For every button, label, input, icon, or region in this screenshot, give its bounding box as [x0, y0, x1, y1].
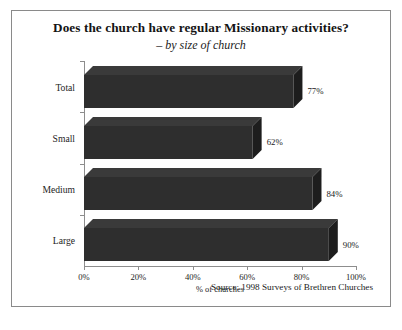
category-label-large: Large [53, 235, 75, 246]
bar-top-face [84, 219, 338, 228]
category-label-small: Small [53, 132, 75, 143]
bar-top-face [84, 168, 321, 177]
bar-shape [84, 168, 323, 212]
chart-title: Does the church have regular Missionary … [12, 20, 390, 35]
bar-value-label-large: 90% [343, 240, 359, 250]
x-axis-tick-label: 20% [131, 272, 147, 282]
bar-front-face [84, 177, 312, 210]
bar-top-face [84, 66, 302, 75]
bar-large [84, 219, 340, 263]
category-label-medium: Medium [42, 184, 75, 195]
title-block: Does the church have regular Missionary … [12, 20, 390, 53]
bar-shape [84, 117, 264, 161]
x-axis-tick [193, 266, 194, 270]
bar-value-label-small: 62% [267, 137, 283, 147]
x-axis-tick-label: 60% [239, 272, 255, 282]
x-axis-tick-label: 40% [185, 272, 201, 282]
x-axis-line [84, 266, 356, 267]
bar-total [84, 66, 304, 110]
x-axis-tick [84, 266, 85, 270]
x-axis-tick [138, 266, 139, 270]
bar-medium [84, 168, 323, 212]
source-note: Source: 1998 Surveys of Brethren Churche… [211, 282, 373, 292]
category-label-total: Total [55, 81, 75, 92]
y-axis-tick [80, 215, 84, 216]
y-axis-tick [80, 164, 84, 165]
x-axis-tick-label: 80% [294, 272, 310, 282]
bar-front-face [84, 75, 293, 108]
x-axis-tick [356, 266, 357, 270]
x-axis-tick-label: 0% [78, 272, 89, 282]
bar-small [84, 117, 264, 161]
bar-shape [84, 219, 340, 263]
plot-area: 0%20%40%60%80%100% Total77%Small62%Mediu… [84, 61, 356, 266]
x-axis-tick [247, 266, 248, 270]
x-axis-tick [302, 266, 303, 270]
chart-subtitle: – by size of church [12, 38, 390, 53]
y-axis-tick [80, 112, 84, 113]
bar-value-label-medium: 84% [326, 189, 342, 199]
y-axis-tick [80, 61, 84, 62]
bar-shape [84, 66, 304, 110]
x-axis-tick-label: 100% [346, 272, 366, 282]
bar-top-face [84, 117, 262, 126]
chart-frame: Does the church have regular Missionary … [11, 10, 391, 307]
bar-value-label-total: 77% [307, 86, 323, 96]
bar-front-face [84, 228, 329, 261]
bar-front-face [84, 126, 253, 159]
